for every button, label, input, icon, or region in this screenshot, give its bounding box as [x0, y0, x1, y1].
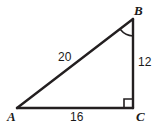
vertex-label-b: B: [134, 4, 143, 17]
side-length-label-bc: 12: [138, 56, 151, 68]
right-angle-c-marker: [124, 99, 133, 108]
vertex-label-a: A: [7, 110, 16, 123]
side-ab-line: [17, 19, 133, 108]
triangle-figure: A B C 20 12 16: [0, 0, 161, 128]
angle-arc-b-marker: [120, 30, 133, 36]
side-length-label-ab: 20: [58, 51, 71, 63]
side-length-label-ac: 16: [70, 111, 83, 123]
vertex-label-c: C: [136, 110, 145, 123]
